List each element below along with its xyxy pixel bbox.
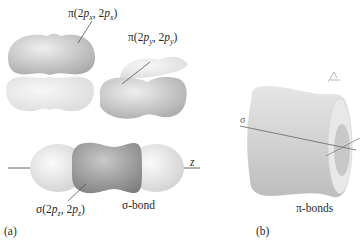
label-part: z	[190, 156, 194, 168]
sigma-bond-label: σ-bond	[122, 200, 155, 212]
panel-b-label: (b)	[256, 226, 269, 238]
label-part: σ(2	[36, 203, 52, 215]
sigma-pz-label: σ(2pz, 2pz)	[36, 204, 85, 218]
label-part: , 2	[93, 7, 105, 19]
panel-a-label: (a)	[4, 226, 17, 238]
z-axis-label: z	[190, 157, 194, 169]
label-part: )	[174, 31, 178, 43]
pi-px-orbital	[6, 34, 95, 111]
label-part: )	[81, 203, 85, 215]
label-part: π(2	[128, 31, 143, 43]
label-part: )	[114, 7, 118, 19]
label-part: , 2	[61, 203, 73, 215]
pi-bonds-label: π-bonds	[296, 203, 333, 215]
sigma-glyph: σ	[240, 115, 245, 125]
pi-py-label: π(2py, 2py)	[128, 32, 177, 46]
label-part: π(2	[68, 7, 83, 19]
pi-px-label: π(2px, 2px)	[68, 8, 117, 22]
label-part: , 2	[153, 31, 165, 43]
sigma-pz-orbital	[30, 143, 184, 193]
pi-bonds-cylinder	[240, 72, 360, 197]
pi-py-orbital	[100, 57, 188, 119]
